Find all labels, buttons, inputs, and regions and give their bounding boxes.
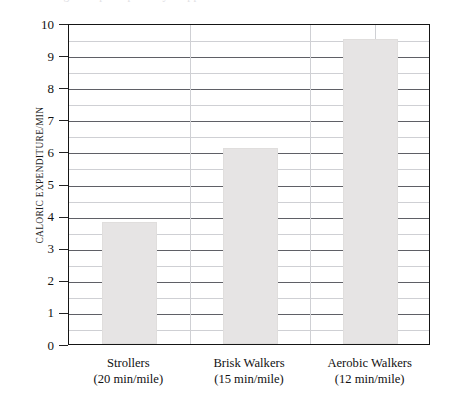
x-axis-label-name: Aerobic Walkers [327, 356, 411, 370]
x-axis-label-name: Brisk Walkers [213, 356, 284, 370]
category-divider [190, 25, 191, 344]
y-tick-label: 4 [20, 210, 54, 223]
y-tick-mark [59, 152, 68, 153]
y-tick-mark [59, 24, 68, 25]
cropped-caption-text: figure caption partially cropped above [56, 0, 436, 1]
bar [223, 148, 278, 344]
y-tick-mark [59, 88, 68, 89]
y-tick-mark [59, 249, 68, 250]
y-tick-label: 0 [20, 339, 54, 352]
y-tick-mark [59, 281, 68, 282]
y-tick-label: 9 [20, 50, 54, 63]
y-tick-label: 3 [20, 242, 54, 255]
figure: figure caption partially cropped above C… [0, 0, 456, 396]
y-tick-label: 7 [20, 114, 54, 127]
bar [343, 39, 398, 344]
y-tick-mark [59, 120, 68, 121]
x-axis-label-group: Aerobic Walkers(12 min/mile) [295, 356, 445, 387]
x-axis-label-name: Strollers [107, 356, 150, 370]
y-tick-mark [59, 313, 68, 314]
y-tick-label: 5 [20, 178, 54, 191]
y-tick-label: 10 [20, 18, 54, 31]
y-tick-label: 6 [20, 146, 54, 159]
y-tick-label: 1 [20, 306, 54, 319]
y-tick-mark [59, 345, 68, 346]
plot-area [68, 24, 430, 345]
y-tick-label: 2 [20, 274, 54, 287]
category-divider [310, 25, 311, 344]
cropped-caption-sliver: figure caption partially cropped above [0, 0, 456, 9]
y-tick-mark [59, 56, 68, 57]
y-tick-mark [59, 185, 68, 186]
y-tick-label: 8 [20, 82, 54, 95]
y-tick-mark [59, 217, 68, 218]
bar [102, 222, 157, 344]
x-axis-label-pace: (12 min/mile) [295, 372, 445, 388]
